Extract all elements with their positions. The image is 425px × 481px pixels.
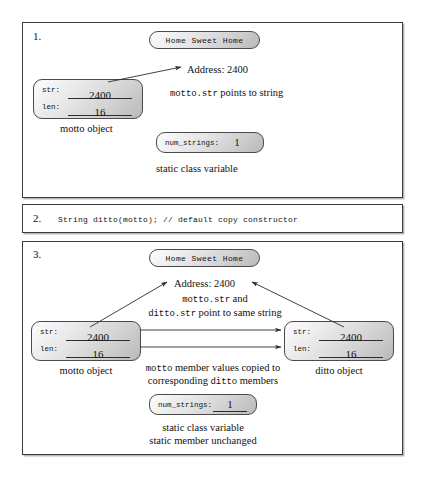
copy-note-line1-rest-3: member values copied to bbox=[172, 362, 280, 373]
copy-note-line2-pre-3: corresponding bbox=[148, 375, 211, 386]
ditto-field-len-label-3: len: bbox=[293, 345, 311, 353]
motto-object-box-3: str: 2400 len: 16 bbox=[31, 321, 141, 361]
share-note-line2-mono-3: ditto.str bbox=[148, 309, 196, 319]
motto-field-len-slot-1: 16 bbox=[68, 102, 132, 116]
motto-field-str-slot-1: 2400 bbox=[68, 85, 132, 99]
panel-step-1: 1. Home Sweet Home Address: 2400 str: 24… bbox=[22, 22, 403, 198]
string-literal-box-3: Home Sweet Home bbox=[149, 249, 260, 267]
motto-field-str-3: str: 2400 bbox=[40, 327, 132, 341]
motto-field-len-value-3: 16 bbox=[93, 348, 104, 360]
motto-field-len-slot-3: 16 bbox=[66, 344, 130, 358]
share-note-line1-3: motto.str and bbox=[117, 293, 313, 305]
panel-step-2: 2. String ditto(motto); // default copy … bbox=[22, 204, 403, 233]
motto-object-box-1: str: 2400 len: 16 bbox=[33, 79, 143, 119]
code-statement-2: String ditto(motto); // default copy con… bbox=[58, 215, 298, 224]
num-strings-box-1: num_strings: 1 bbox=[156, 132, 264, 153]
motto-field-len-3: len: 16 bbox=[40, 344, 132, 358]
motto-field-str-value-1: 2400 bbox=[89, 89, 111, 101]
num-strings-label-1: num_strings: bbox=[165, 139, 219, 147]
ditto-field-str-value-3: 2400 bbox=[340, 331, 362, 343]
string-literal-text-3: Home Sweet Home bbox=[165, 254, 243, 263]
copy-note-line2-mono-3: ditto bbox=[211, 377, 238, 387]
step-number-2: 2. bbox=[33, 212, 41, 224]
copy-note-line1-mono-3: motto bbox=[146, 364, 173, 374]
motto-field-len-label-1: len: bbox=[42, 103, 60, 111]
motto-field-len-label-3: len: bbox=[40, 345, 58, 353]
num-strings-box-3: num_strings: 1 bbox=[149, 394, 257, 415]
pointer-note-1: motto.str points to string bbox=[170, 87, 283, 99]
pointer-note-rest-1: points to string bbox=[218, 87, 284, 98]
share-note-line1-mono-3: motto.str bbox=[182, 295, 230, 305]
motto-field-str-slot-3: 2400 bbox=[66, 327, 130, 341]
string-literal-box-1: Home Sweet Home bbox=[149, 31, 260, 49]
share-note-line1-rest-3: and bbox=[230, 293, 248, 304]
motto-field-len-value-1: 16 bbox=[95, 106, 106, 118]
motto-field-str-label-3: str: bbox=[40, 328, 58, 336]
share-note-line2-rest-3: point to same string bbox=[196, 307, 282, 318]
static-var-caption-line2-3: static member unchanged bbox=[129, 435, 277, 446]
ditto-field-str-slot-3: 2400 bbox=[319, 327, 383, 341]
ditto-object-caption-3: ditto object bbox=[284, 365, 394, 376]
motto-object-caption-3: motto object bbox=[31, 365, 141, 376]
motto-object-caption-1: motto object bbox=[60, 123, 113, 134]
motto-field-str-label-1: str: bbox=[42, 86, 60, 94]
address-label-3: Address: 2400 bbox=[174, 278, 235, 289]
copy-note-line2-3: corresponding ditto members bbox=[133, 375, 293, 387]
static-var-caption-1: static class variable bbox=[156, 163, 238, 174]
figure-root: 1. Home Sweet Home Address: 2400 str: 24… bbox=[0, 0, 425, 481]
num-strings-label-3: num_strings: bbox=[158, 401, 212, 409]
ditto-field-len-3: len: 16 bbox=[293, 344, 385, 358]
string-literal-text-1: Home Sweet Home bbox=[165, 36, 243, 45]
static-var-caption-line1-3: static class variable bbox=[129, 422, 277, 433]
ditto-field-len-value-3: 16 bbox=[346, 348, 357, 360]
num-strings-value-3: 1 bbox=[213, 398, 247, 412]
share-note-line2-3: ditto.str point to same string bbox=[117, 307, 313, 319]
motto-field-len-1: len: 16 bbox=[42, 102, 134, 116]
panel-step-3: 3. Home Sweet Home Address: 2400 motto.s… bbox=[22, 241, 403, 455]
copy-note-line2-post-3: members bbox=[237, 375, 278, 386]
motto-field-str-1: str: 2400 bbox=[42, 85, 134, 99]
step-number-3: 3. bbox=[33, 248, 41, 260]
ditto-object-box-3: str: 2400 len: 16 bbox=[284, 321, 394, 361]
num-strings-value-1: 1 bbox=[220, 136, 254, 148]
pointer-note-mono-1: motto.str bbox=[170, 89, 218, 99]
ditto-field-len-slot-3: 16 bbox=[319, 344, 383, 358]
ditto-field-str-3: str: 2400 bbox=[293, 327, 385, 341]
copy-note-line1-3: motto member values copied to bbox=[133, 362, 293, 374]
address-label-1: Address: 2400 bbox=[187, 64, 248, 75]
ditto-field-str-label-3: str: bbox=[293, 328, 311, 336]
motto-field-str-value-3: 2400 bbox=[87, 331, 109, 343]
step-number-1: 1. bbox=[33, 30, 41, 42]
